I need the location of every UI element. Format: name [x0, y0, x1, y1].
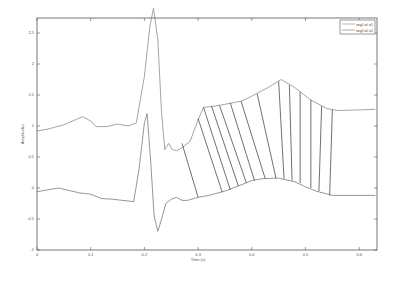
y-tick-label: 1.5 [28, 92, 34, 97]
y-tick-label: 0 [32, 185, 35, 190]
y-tick-label: -0.5 [27, 216, 35, 221]
legend: seg1 w/ o1 seg2 w/ o2 [340, 20, 375, 34]
connector-line [319, 106, 322, 191]
y-tick-label: -1 [30, 247, 34, 252]
y-tick-label: 0.5 [28, 154, 34, 159]
connector-line [289, 85, 292, 180]
y-tick-label: 2.5 [28, 30, 34, 35]
connector-line [230, 103, 254, 181]
series-line-1 [37, 8, 375, 151]
legend-label-seg2: seg2 w/ o2 [356, 29, 373, 33]
x-tick-label: 0 [36, 252, 39, 257]
connector-line [279, 81, 284, 178]
connector-line [220, 106, 247, 183]
y-axis-label: Amplitudes [20, 124, 25, 144]
connector-line [330, 110, 333, 196]
x-tick-label: 0.1 [88, 252, 94, 257]
x-axis-label: Time (s) [191, 257, 206, 262]
x-tick-label: 0.6 [356, 252, 362, 257]
plot-area [37, 8, 375, 231]
y-tick-label: 2 [32, 61, 35, 66]
connector-line [198, 119, 222, 193]
connector-line [257, 94, 276, 178]
line-chart: 00.10.20.30.40.50.6-1-0.500.511.522.5 Ti… [0, 0, 398, 282]
x-tick-label: 0.4 [249, 252, 255, 257]
x-tick-label: 0.5 [303, 252, 309, 257]
connector-line [203, 107, 230, 189]
connector-line [182, 143, 198, 197]
axis-ticks: 00.10.20.30.40.50.6-1-0.500.511.522.5 [27, 18, 377, 257]
legend-label-seg1: seg1 w/ o1 [356, 23, 373, 27]
axes-box [37, 18, 377, 250]
x-tick-label: 0.2 [142, 252, 148, 257]
y-tick-label: 1 [32, 123, 35, 128]
series-line-2 [37, 114, 375, 232]
